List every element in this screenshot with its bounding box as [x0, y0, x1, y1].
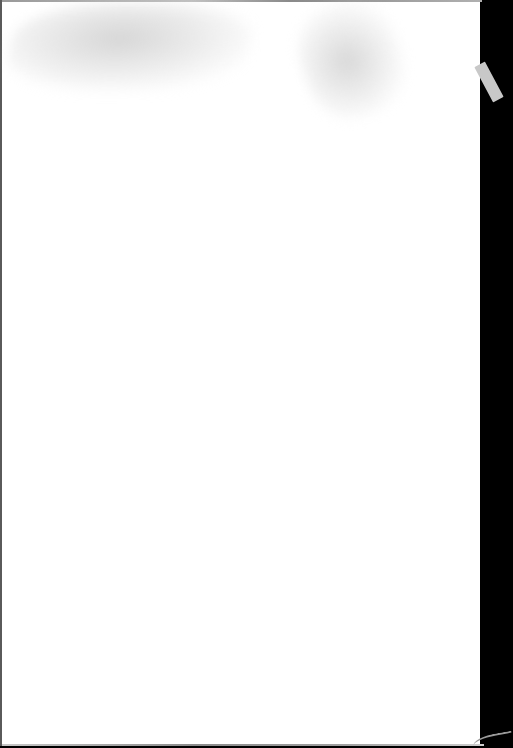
- grey-smudge-top-left: [1, 4, 259, 90]
- paper-bottom-edge: [2, 744, 484, 746]
- paper-top-edge: [2, 0, 482, 2]
- grey-smudge-top-right: [285, 0, 418, 131]
- blank-paper-sheet: [0, 0, 480, 746]
